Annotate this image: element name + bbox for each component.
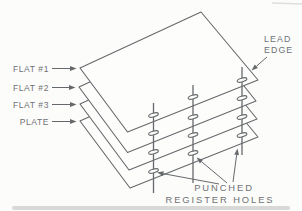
scan-artifact-strip	[12, 206, 290, 210]
diagram-canvas: FLAT #1FLAT #2FLAT #3PLATELEADEDGEPUNCHE…	[0, 0, 302, 211]
sheet-label-flat-1: FLAT #1	[13, 64, 49, 74]
lead-edge-arrow-line	[256, 57, 267, 66]
lead-edge-label-line2: EDGE	[264, 45, 293, 55]
figure: FLAT #1FLAT #2FLAT #3PLATELEADEDGEPUNCHE…	[0, 0, 302, 211]
register-holes-label-line2: REGISTER HOLES	[166, 194, 275, 205]
register-holes-arrow-3-head	[234, 149, 239, 156]
scan-artifact-line	[272, 3, 302, 4]
lead-edge-label-line1: LEAD	[264, 34, 291, 44]
sheet-label-arrow-plate-head	[70, 119, 77, 124]
sheet-label-arrow-flat-3-head	[70, 102, 77, 107]
sheet-label-arrow-flat-2-head	[69, 85, 76, 90]
register-holes-arrow-1-line	[163, 174, 219, 184]
sheet-label-flat-3: FLAT #3	[13, 100, 49, 110]
sheet-label-flat-2: FLAT #2	[13, 83, 49, 93]
register-holes-label-line1: PUNCHED	[194, 182, 254, 193]
sheet-label-plate: PLATE	[20, 117, 49, 127]
register-holes-arrow-2-line	[201, 162, 227, 183]
sheet-label-arrow-flat-1-head	[70, 66, 77, 71]
register-holes-arrow-3-line	[233, 155, 237, 182]
